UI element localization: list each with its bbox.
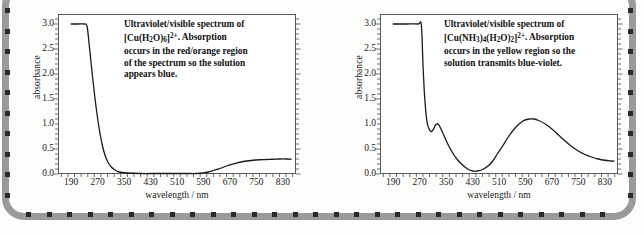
x-tick-labels-right: 190270350430510590670750830 [380,178,618,190]
border-dot [293,212,298,217]
border-dot [354,212,359,217]
annotation-text-right: Ultraviolet/visible spectrum of [Cu(NH3)… [444,19,622,69]
border-dot [5,193,10,198]
border-dot [5,152,10,157]
annot-line-3: occurs in the yellow region so the [444,46,575,56]
border-dot [498,212,503,217]
y-tick-label: 0.5 [350,144,376,154]
border-dot [170,212,175,217]
x-axis-label-right: wavelength / nm [380,190,618,200]
border-dot [26,212,31,217]
y-tick-label: 3.0 [350,19,376,29]
border-dot [5,90,10,95]
y-tick-label: 0.0 [350,169,376,179]
border-dot [5,29,10,34]
border-dot [88,212,93,217]
border-dot [477,212,482,217]
y-axis-label-left: absorbance [32,32,42,122]
annot-after-formula: . Absorption [178,33,227,43]
border-dot [5,172,10,177]
annot-line-5: appears blue. [124,69,177,79]
border-dot [108,212,113,217]
annot-line-4: of the spectrum so the solution [124,58,245,68]
annot-after-formula: . Absorption [525,33,574,43]
border-dot [5,131,10,136]
border-dot [272,212,277,217]
border-dot [231,212,236,217]
annotation-text-left: Ultraviolet/visible spectrum of [Cu(H2O)… [124,19,296,81]
spectrum-panel-cu-aqua: 0.00.51.01.52.02.53.0 190270350430510590… [14,6,314,206]
annot-line-3: occurs in the red/orange region [124,46,248,56]
formula-sup: 2+ [170,31,178,39]
border-dot [375,212,380,217]
border-dot [67,212,72,217]
x-tick-label: 830 [266,178,300,188]
border-dot [129,212,134,217]
border-dot [5,70,10,75]
formula-sup: 2+ [517,31,525,39]
y-tick-label: 0.0 [28,169,54,179]
spectrum-panel-cu-ammine: 0.00.51.01.52.02.53.0 190270350430510590… [336,6,636,206]
border-dot [580,212,585,217]
formula-mid-2: (H [486,33,496,43]
border-dot [211,212,216,217]
border-dot [539,212,544,217]
y-tick-label: 3.0 [28,19,54,29]
border-dot [600,212,605,217]
border-dot [518,212,523,217]
x-axis-label-left: wavelength / nm [58,190,296,200]
annot-line-4: solution transmits blue-violet. [444,58,562,68]
x-tick-labels-left: 190270350430510590670750830 [58,178,296,190]
y-tick-label: 0.5 [28,144,54,154]
border-dot [313,212,318,217]
border-dot [395,212,400,217]
border-dot [149,212,154,217]
border-dot [457,212,462,217]
border-dot [559,212,564,217]
annot-formula: [Cu(NH3)4(H2O)2]2+ [444,33,525,43]
annot-formula: [Cu(H2O)6]2+ [124,33,178,43]
border-dot [334,212,339,217]
annot-line-1: Ultraviolet/visible spectrum of [444,19,564,29]
border-dot [190,212,195,217]
border-dot [47,212,52,217]
formula-pre: [Cu(H [124,33,149,43]
formula-mid: O) [153,33,163,43]
border-dot [252,212,257,217]
y-axis-label-right: absorbance [354,32,364,122]
formula-pre: [Cu(NH [444,33,476,43]
border-dot [5,8,10,13]
border-dot [5,49,10,54]
formula-mid-3: O) [500,33,510,43]
border-dot [5,111,10,116]
figure-page: 0.00.51.01.52.02.53.0 190270350430510590… [0,0,644,235]
annot-line-1: Ultraviolet/visible spectrum of [124,19,244,29]
border-dot [416,212,421,217]
x-tick-label: 830 [588,178,622,188]
border-dot [436,212,441,217]
